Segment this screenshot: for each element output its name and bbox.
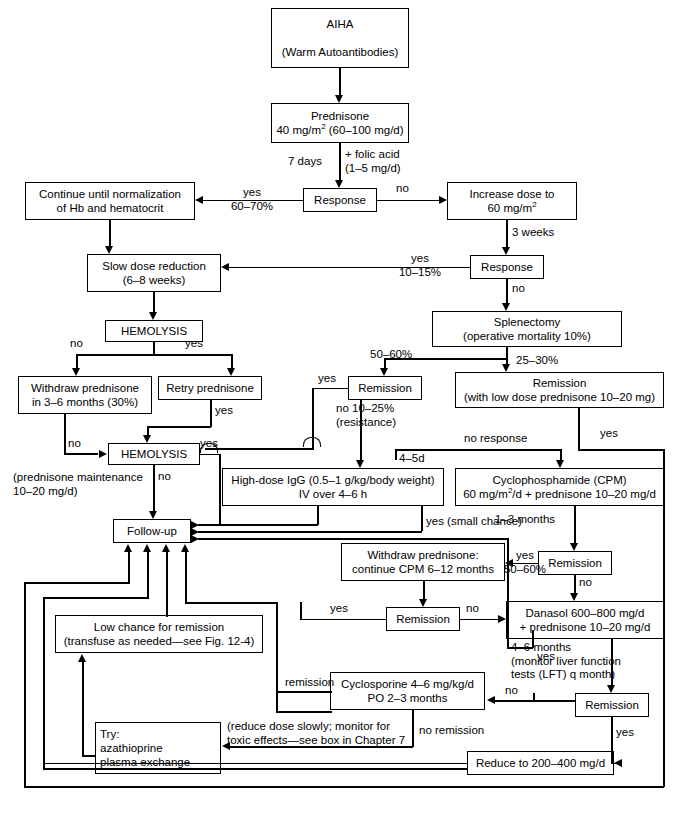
edge-try-lowchance-h	[82, 755, 96, 757]
edge-label-yes-remission-danasol: yes	[616, 726, 634, 740]
edge-label-yes-10-15: yes 10–15%	[385, 252, 455, 279]
edge-label-25-30-spl: 25–30%	[516, 354, 558, 368]
arrowhead-down-hemolysis2	[143, 435, 151, 443]
edge-label-no-hemolysis2: no	[158, 470, 171, 484]
edge-up-followup-a-v	[24, 582, 26, 787]
edge-increase-response2	[506, 220, 508, 247]
node-withdraw-cpm-label: Withdraw prednisone: continue CPM 6–12 m…	[348, 548, 498, 576]
node-aiha-label: AIHA (Warm Autoantibodies)	[278, 17, 403, 59]
node-increase-dose: Increase dose to60 mg/m2	[447, 182, 577, 220]
edge-remission-cpm-no	[574, 575, 576, 593]
edge-up-followup-d-h	[185, 602, 277, 604]
edge-hemolysis1-no-down	[76, 354, 78, 368]
edge-label-folic-acid: + folic acid (1–5 mg/d)	[345, 148, 401, 175]
edge-up-followup-b-v	[43, 597, 45, 769]
node-remission-danasol-label: Remission	[581, 698, 643, 712]
edge-cyclosporine-remission-out	[276, 691, 332, 693]
edge-up-followup-a-h	[24, 582, 130, 584]
edge-up-followup-c	[166, 551, 168, 617]
edge-remission-cpm2-yes-v	[300, 602, 302, 619]
edge-response1-increase	[377, 200, 439, 202]
node-prednisone-label: Prednisone40 mg/m2 (60–100 mg/d)	[272, 109, 407, 137]
arrowhead-right-hemolysis2	[99, 450, 107, 458]
edge-hemolysis2-yes-h	[200, 454, 220, 456]
node-prednisone: Prednisone40 mg/m2 (60–100 mg/d)	[271, 103, 409, 143]
arrowhead-down-cpm	[556, 460, 564, 468]
edge-up-followup-d-h2	[276, 711, 332, 713]
arrowhead-down-remission-cpm	[570, 543, 578, 551]
arrowhead-down-response2	[502, 247, 510, 255]
arrowhead-down-retry-pred	[227, 368, 235, 376]
node-slow-dose-reduction-label: Slow dose reduction (6–8 weeks)	[98, 259, 210, 287]
node-slow-dose-reduction: Slow dose reduction (6–8 weeks)	[87, 254, 221, 292]
arrowhead-down-remission-lowdose	[502, 364, 510, 372]
edge-no-response-down-cpm	[560, 449, 562, 460]
edge-label-no-remission-cpm2: no	[466, 602, 479, 616]
node-withdraw-prednisone-label: Withdraw prednisone in 3–6 months (30%)	[27, 381, 143, 409]
node-response-2: Response	[470, 255, 544, 279]
arrowhead-down-prednisone	[335, 95, 343, 103]
edge-label-yes-remission-cpm2-left: yes	[330, 602, 348, 616]
edge-remission-spl-yes-h2	[205, 448, 313, 450]
node-high-dose-igg-label: High-dose IgG (0.5–1 g/kg/body weight) I…	[227, 473, 438, 501]
arrowhead-down-response1	[335, 180, 343, 188]
arrowhead-down-danasol	[570, 593, 578, 601]
edge-remission-cpm2-yes-h	[300, 619, 387, 621]
arrowhead-left-continue	[195, 196, 203, 204]
node-response-1-label: Response	[310, 193, 370, 207]
edge-remission-lowdose-yes-right	[663, 449, 665, 775]
edge-up-followup-d-v	[276, 602, 278, 712]
arrowhead-down-withdraw-pred	[72, 368, 80, 376]
node-withdraw-prednisone: Withdraw prednisone in 3–6 months (30%)	[18, 376, 152, 414]
edge-remission-lowdose-yes-v	[578, 408, 580, 450]
edge-remission-dan-yes-h	[611, 763, 617, 765]
edge-label-no-danasol: no	[505, 684, 518, 698]
edge-retry-yes-v	[210, 400, 212, 427]
edge-outer-rail-bottom	[24, 786, 664, 788]
edge-remission-lowdose-yes-h	[578, 449, 664, 451]
edge-label-1-3-months: 1–3 months	[495, 513, 555, 527]
node-high-dose-igg: High-dose IgG (0.5–1 g/kg/body weight) I…	[222, 468, 444, 506]
edge-hemolysis1-down	[153, 342, 155, 355]
edge-label-7-days: 7 days	[288, 155, 322, 169]
edge-label-4-6-months: 4–6 months (monitor liver function tests…	[511, 641, 621, 682]
edge-label-no-response: no response	[464, 432, 527, 446]
edge-withdraw-no-v	[64, 414, 66, 454]
edge-into-followup-2	[198, 531, 422, 533]
node-hemolysis-2-label: HEMOLYSIS	[117, 447, 191, 461]
node-remission-splenectomy-label: Remission	[354, 381, 416, 395]
edge-label-yes-hemolysis2: yes	[200, 437, 218, 451]
node-reduce-dose: Reduce to 200–400 mg/d	[467, 751, 614, 775]
arrowhead-down-igg	[356, 460, 364, 468]
node-remission-low-dose-label: Remission (with low dose prednisone 10–2…	[460, 376, 659, 404]
arrowhead-down-followup	[149, 511, 157, 519]
edge-label-no-remission: no remission	[419, 724, 484, 738]
edge-no-response-v	[395, 449, 397, 460]
edge-remission-dan-yes-v	[611, 717, 613, 763]
edge-remission-cpm2-no	[460, 619, 498, 621]
arrowhead-right-increase	[439, 196, 447, 204]
node-hemolysis-1-label: HEMOLYSIS	[117, 324, 191, 338]
arrowhead-down-splenectomy	[502, 303, 510, 311]
edge-into-followup-1-v	[317, 506, 319, 525]
node-try-alternatives: Try: azathioprine plasma exchange	[95, 722, 221, 774]
edge-label-no-withdraw: no	[68, 437, 81, 451]
edge-label-no-response1: no	[396, 182, 409, 196]
edge-reduce-left	[43, 763, 468, 765]
edge-slowdose-hemolysis1	[153, 292, 155, 312]
edge-up-followup-d	[185, 551, 187, 603]
edge-try-lowchance-v	[82, 662, 84, 756]
edge-up-followup-b-h	[43, 597, 149, 599]
node-remission-cpm-2-label: Remission	[392, 612, 454, 626]
node-danasol-label: Danasol 600–800 mg/d + prednisone 10–20 …	[516, 606, 655, 634]
edge-continue-slowdose	[109, 220, 111, 246]
arrowhead-right-danasol	[498, 615, 506, 623]
edge-response2-splenectomy	[506, 279, 508, 303]
node-continue-normalization: Continue until normalization of Hb and h…	[25, 182, 195, 220]
node-danasol: Danasol 600–800 mg/d + prednisone 10–20 …	[506, 601, 664, 639]
edge-label-no-resistance: no 10–25% (resistance)	[336, 402, 396, 429]
node-cyclophosphamide-label: Cyclophosphamide (CPM)60 mg/m2/d + predn…	[459, 473, 660, 501]
arrowhead-left-slowdose	[221, 263, 229, 271]
node-continue-normalization-label: Continue until normalization of Hb and h…	[35, 187, 185, 215]
edge-label-4-5d: 4–5d	[399, 452, 425, 466]
